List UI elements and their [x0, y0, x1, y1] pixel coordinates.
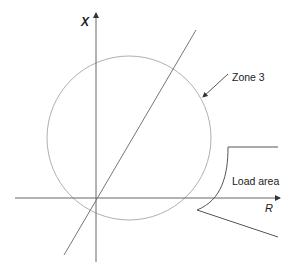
- zone3-label: Zone 3: [232, 71, 265, 83]
- r-axis-label: R: [265, 202, 273, 214]
- line-impedance: [64, 30, 196, 255]
- load-area-boundary: [197, 147, 278, 237]
- x-axis-label: X: [80, 15, 90, 29]
- zone3-pointer: [203, 74, 228, 97]
- load-area-label: Load area: [232, 175, 279, 187]
- zone3-circle: [47, 56, 211, 220]
- impedance-diagram: X R Zone 3 Load area: [0, 0, 292, 275]
